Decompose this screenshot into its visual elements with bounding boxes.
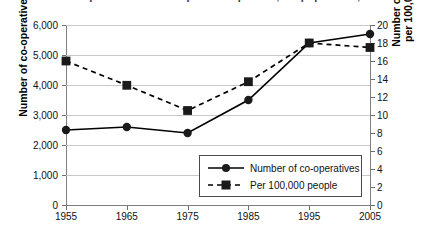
data-point-marker xyxy=(62,126,70,134)
legend-key-square-dashed xyxy=(206,178,246,192)
data-point-marker xyxy=(122,81,131,90)
chart-container: Number of co-operatives and co-operative… xyxy=(0,0,437,243)
data-point-marker xyxy=(123,123,131,131)
series-line-solid xyxy=(66,34,370,133)
legend-key-circle-solid xyxy=(206,161,246,175)
chart-legend: Number of co-operatives Per 100,000 peop… xyxy=(199,155,362,197)
data-point-marker xyxy=(62,57,71,66)
legend-label-co-operatives: Number of co-operatives xyxy=(250,163,360,174)
data-series-layer xyxy=(0,0,437,243)
series-line-dashed xyxy=(66,43,370,111)
data-point-marker xyxy=(366,43,375,52)
legend-item-co-operatives: Number of co-operatives xyxy=(206,160,360,176)
legend-item-per-100000: Per 100,000 people xyxy=(206,177,337,193)
data-point-marker xyxy=(244,77,253,86)
data-point-marker xyxy=(305,39,314,48)
data-point-marker xyxy=(366,30,374,38)
data-point-marker xyxy=(183,129,191,137)
data-point-marker xyxy=(244,96,252,104)
legend-label-per-100000: Per 100,000 people xyxy=(250,180,337,191)
data-point-marker xyxy=(183,106,192,115)
